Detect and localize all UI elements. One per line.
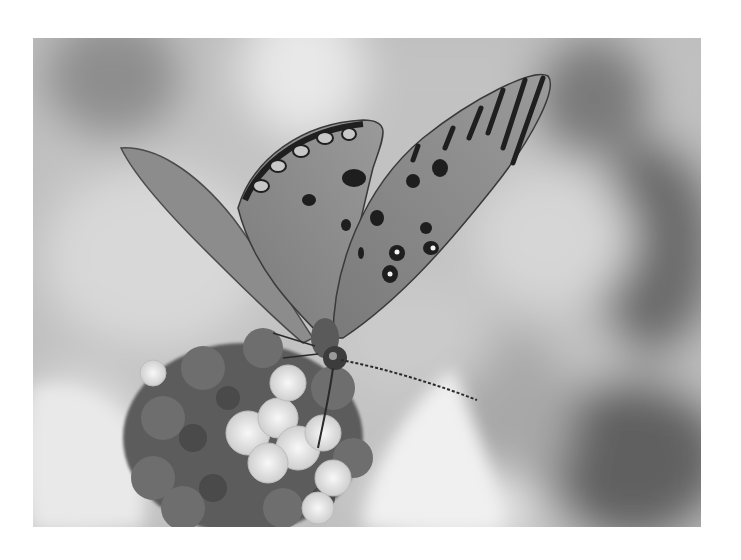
photo-canvas [33, 38, 701, 527]
butterfly-photo [33, 38, 701, 527]
